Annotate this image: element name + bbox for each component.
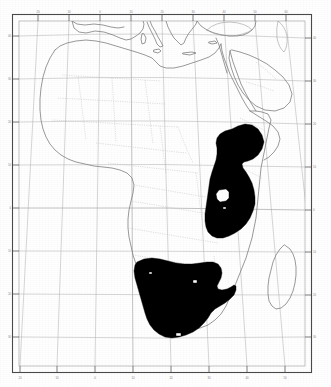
tick-label: 10: [313, 165, 317, 169]
tick-label: 40: [313, 36, 317, 40]
map-canvas: 20 10 0 10 20 30 40 50 60 20 10 0 10 20 …: [0, 0, 331, 387]
tick-label: 60: [284, 10, 288, 14]
tick-label: 20: [169, 376, 173, 380]
tick-label: 30: [313, 79, 317, 83]
tick-label: 10: [129, 10, 133, 14]
tick-label: 30: [313, 335, 317, 339]
tick-label: 20: [8, 292, 12, 296]
tick-label: 50: [283, 376, 287, 380]
tick-label: 20: [313, 122, 317, 126]
range-speck-c: [193, 280, 197, 283]
tick-label: 20: [36, 10, 40, 14]
tick-label: 40: [222, 10, 226, 14]
range-speck-a: [223, 207, 226, 209]
tick-label: 40: [245, 376, 249, 380]
tick-label: 10: [313, 250, 317, 254]
range-speck-b: [149, 272, 152, 274]
tick-label: 30: [8, 335, 12, 339]
tick-label: 30: [8, 77, 12, 81]
tick-label: 10: [55, 376, 59, 380]
range-speck-d: [176, 333, 181, 336]
tick-label: 10: [8, 163, 12, 167]
tick-label: 30: [191, 10, 195, 14]
tick-label: 20: [313, 293, 317, 297]
tick-label: 10: [8, 249, 12, 253]
tick-label: 40: [8, 34, 12, 38]
tick-label: 10: [131, 376, 135, 380]
tick-label: 10: [67, 10, 71, 14]
tick-label: 20: [18, 376, 22, 380]
distribution-map-figure: 20 10 0 10 20 30 40 50 60 20 10 0 10 20 …: [0, 0, 331, 387]
tick-label: 30: [207, 376, 211, 380]
tick-label: 50: [253, 10, 257, 14]
tick-label: 20: [160, 10, 164, 14]
tick-label: 20: [8, 120, 12, 124]
